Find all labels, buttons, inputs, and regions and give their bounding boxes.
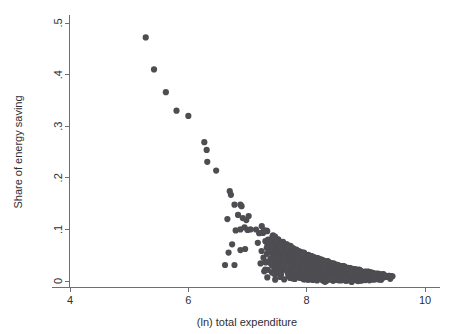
data-point — [262, 267, 268, 273]
data-point — [335, 265, 341, 271]
data-point — [185, 113, 191, 119]
data-point — [228, 192, 234, 198]
data-point — [284, 244, 290, 250]
x-tick-label: 4 — [67, 294, 73, 306]
data-point — [293, 268, 299, 274]
data-point — [306, 274, 312, 280]
data-point — [204, 159, 210, 165]
data-point — [225, 250, 231, 256]
data-point — [229, 241, 235, 247]
data-point — [238, 203, 244, 209]
y-tick-label: .5 — [52, 18, 64, 27]
data-point — [151, 66, 157, 72]
x-axis-title: (ln) total expenditure — [197, 316, 297, 328]
y-tick-label: .4 — [52, 70, 64, 79]
data-point — [231, 262, 237, 268]
data-point — [253, 226, 259, 232]
y-tick-label: .3 — [52, 122, 64, 131]
data-point — [143, 34, 149, 40]
plot-background — [0, 0, 455, 334]
data-point — [278, 241, 284, 247]
y-tick-label: .2 — [52, 173, 64, 182]
data-point — [264, 245, 270, 251]
data-point — [163, 89, 169, 95]
data-point — [204, 147, 210, 153]
data-point — [231, 202, 237, 208]
data-point — [298, 274, 304, 280]
data-point — [258, 248, 264, 254]
data-point — [278, 248, 284, 254]
data-point — [300, 250, 306, 256]
y-tick-label: 0 — [52, 278, 64, 284]
data-point — [372, 276, 378, 282]
data-point — [284, 266, 290, 272]
data-point — [301, 268, 307, 274]
data-point — [267, 239, 273, 245]
y-axis-title: Share of energy saving — [12, 95, 24, 208]
data-point — [389, 273, 395, 279]
data-point — [275, 269, 281, 275]
data-point — [358, 275, 364, 281]
data-point — [382, 272, 388, 278]
data-point — [264, 274, 270, 280]
x-tick-label: 6 — [185, 294, 191, 306]
data-point — [201, 139, 207, 145]
data-point — [242, 246, 248, 252]
data-point — [274, 254, 280, 260]
data-point — [321, 266, 327, 272]
data-point — [257, 260, 263, 266]
y-tick-label: .1 — [52, 225, 64, 234]
data-point — [224, 216, 230, 222]
data-point — [246, 213, 252, 219]
x-tick-label: 8 — [304, 294, 310, 306]
chart-figure: 0.1.2.3.4.546810 (ln) total expenditure … — [0, 0, 455, 334]
data-point — [293, 247, 299, 253]
data-point — [351, 271, 357, 277]
data-point — [294, 256, 300, 262]
x-tick-label: 10 — [419, 294, 431, 306]
data-point — [344, 274, 350, 280]
data-point — [255, 240, 261, 246]
data-point — [281, 276, 287, 282]
data-point — [261, 227, 267, 233]
data-point — [310, 255, 316, 261]
data-point — [222, 262, 228, 268]
data-point — [269, 256, 275, 262]
data-point — [213, 167, 219, 173]
data-point — [247, 226, 253, 232]
data-point — [292, 276, 298, 282]
data-point — [288, 261, 294, 267]
data-point — [300, 262, 306, 268]
data-point — [173, 108, 179, 114]
scatter-plot: 0.1.2.3.4.546810 (ln) total expenditure … — [0, 0, 455, 334]
